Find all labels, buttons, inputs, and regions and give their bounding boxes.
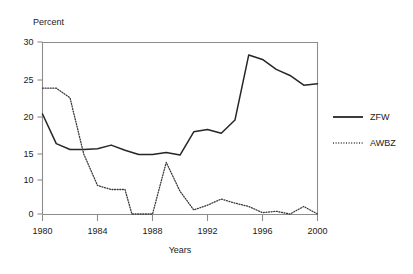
series-group [43, 55, 318, 214]
y-tick-label: 20 [23, 112, 33, 122]
y-tick-label: 0 [28, 209, 33, 219]
x-tick-label: 1984 [87, 226, 107, 236]
y-tick-label: 15 [23, 149, 33, 159]
x-tick-label: 1996 [252, 226, 272, 236]
x-axis: 198019841988199219962000 [32, 42, 327, 236]
y-tick-group: 01015202530 [23, 37, 42, 219]
y-tick-label: 25 [23, 75, 33, 85]
x-tick-label: 1980 [32, 226, 52, 236]
y-tick-label: 30 [23, 37, 33, 47]
line-chart: Percent 01015202530 19801984198819921996… [0, 0, 413, 274]
x-tick-label: 2000 [307, 226, 327, 236]
chart-container: Percent 01015202530 19801984198819921996… [0, 0, 413, 274]
y-axis: 01015202530 [23, 37, 42, 219]
legend-label-zfw: ZFW [370, 112, 390, 122]
x-tick-label: 1988 [142, 226, 162, 236]
x-tick-label: 1992 [197, 226, 217, 236]
series-line-awbz [43, 88, 318, 214]
y-tick-label: 10 [23, 175, 33, 185]
x-axis-title: Years [169, 245, 192, 255]
series-line-zfw [43, 55, 318, 155]
y-axis-title: Percent [33, 17, 65, 27]
legend-label-awbz: AWBZ [370, 138, 396, 148]
x-tick-group: 198019841988199219962000 [32, 215, 327, 237]
legend: ZFW AWBZ [333, 112, 396, 148]
